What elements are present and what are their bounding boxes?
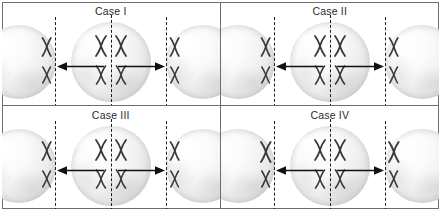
chromosome-pair-left-bottom-case-3 (37, 169, 57, 189)
right-arrow-case-2 (336, 62, 384, 71)
panel-stage-case-1 (2, 19, 220, 105)
left-arrow-case-1 (57, 62, 105, 71)
chromosome-pair-right-top-case-4 (384, 140, 404, 164)
left-daughter-plate-case-1 (55, 17, 56, 106)
metaphase-plate-case-3 (111, 119, 112, 210)
panel-case-1: Case I (2, 2, 221, 106)
chromosome-pair-right-bottom-case-3 (165, 169, 185, 189)
chromosome-pair-right-top-case-3 (165, 140, 185, 162)
panel-case-2: Case II (221, 2, 440, 106)
chromosome-pair-right-bottom-case-4 (384, 169, 404, 189)
chromosome-pair-left-top-case-4 (256, 140, 276, 164)
right-daughter-plate-case-3 (166, 121, 167, 210)
right-arrow-case-4 (336, 166, 384, 175)
chromosome-row-center-top-case-4 (310, 138, 350, 162)
panel-case-3: Case III (2, 106, 221, 210)
left-arrow-case-2 (276, 62, 324, 71)
chromosome-pair-right-top-case-1 (165, 36, 185, 58)
right-arrow-case-1 (117, 62, 165, 71)
chromosome-row-center-top-case-3 (91, 138, 131, 162)
left-arrow-case-4 (276, 166, 324, 175)
panel-stage-case-4 (221, 123, 440, 209)
chromosome-pair-right-top-case-2 (384, 36, 404, 58)
chromosome-pair-right-bottom-case-2 (384, 65, 404, 85)
cell-division-figure: Case I (0, 0, 441, 211)
right-arrow-case-3 (117, 166, 165, 175)
chromosome-row-center-top-case-1 (91, 34, 131, 58)
metaphase-plate-case-4 (330, 119, 331, 210)
chromosome-pair-left-bottom-case-1 (37, 65, 57, 85)
panel-stage-case-2 (221, 19, 440, 105)
right-daughter-plate-case-1 (166, 17, 167, 106)
right-daughter-plate-case-4 (385, 121, 386, 210)
panel-stage-case-3 (2, 123, 220, 209)
chromosome-pair-left-top-case-3 (37, 140, 57, 162)
chromosome-pair-left-top-case-2 (256, 36, 276, 58)
metaphase-plate-case-2 (330, 15, 331, 106)
left-arrow-case-3 (57, 166, 105, 175)
panel-grid: Case I (2, 2, 439, 209)
right-daughter-plate-case-2 (385, 17, 386, 106)
chromosome-pair-left-bottom-case-2 (256, 65, 276, 85)
panel-case-4: Case IV (221, 106, 440, 210)
left-daughter-plate-case-2 (274, 17, 275, 106)
metaphase-plate-case-1 (111, 15, 112, 106)
chromosome-pair-right-bottom-case-1 (165, 65, 185, 85)
left-daughter-plate-case-4 (274, 121, 275, 210)
left-daughter-plate-case-3 (55, 121, 56, 210)
chromosome-row-center-top-case-2 (310, 34, 350, 58)
chromosome-pair-left-top-case-1 (37, 36, 57, 58)
chromosome-pair-left-bottom-case-4 (256, 169, 276, 189)
